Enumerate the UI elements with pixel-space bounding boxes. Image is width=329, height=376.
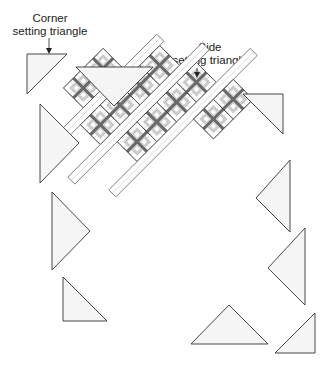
side-setting-triangle-top-right [243,94,283,134]
quilt-assembly-diagram [0,0,329,376]
arrow-head-icon [46,48,52,54]
side-setting-triangle-left [40,104,79,183]
side-setting-triangle-left-lower [52,192,90,270]
corner-setting-triangle-bottom-right [275,313,315,353]
side-setting-triangle-bottom [191,305,268,344]
side-setting-triangle-right-lower [268,228,305,305]
side-setting-triangle-right [256,160,290,232]
side-setting-triangle-bottom-left [63,277,107,321]
corner-setting-triangle-top-left [27,54,67,94]
quilt-top [21,0,277,231]
